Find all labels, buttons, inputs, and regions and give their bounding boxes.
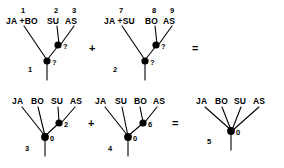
tree5-branch-ja bbox=[205, 107, 231, 130]
tree3-tip2-label: BO bbox=[31, 97, 44, 106]
tree4-number: 4 bbox=[108, 145, 112, 153]
tree3-root-node-label: 0 bbox=[50, 135, 54, 143]
tree1-root-node-label: ? bbox=[52, 59, 57, 67]
tree2-tip1-number: 7 bbox=[119, 7, 123, 15]
node-dots bbox=[41, 41, 235, 141]
tree4-inner-node bbox=[139, 119, 146, 126]
tree-lines-svg bbox=[0, 0, 284, 168]
tree1-tip2-label: SU bbox=[47, 17, 59, 26]
tree3-tip3-label: SU bbox=[51, 97, 63, 106]
tree5-tip4-label: AS bbox=[253, 97, 265, 106]
tree1-inner-node bbox=[54, 41, 61, 48]
tree3-inner-node bbox=[55, 119, 62, 126]
tree2-inner-node bbox=[152, 41, 159, 48]
tree5-number: 5 bbox=[207, 138, 211, 146]
tree3-number: 3 bbox=[25, 145, 29, 153]
operator-plus-bottom: + bbox=[88, 118, 94, 129]
operator-equals-bottom: = bbox=[172, 118, 178, 129]
tree2-branch-tip2 bbox=[155, 26, 157, 44]
tree4-inner-node-label: 6 bbox=[148, 121, 152, 129]
tree4-root-node bbox=[124, 133, 132, 141]
tree1-inner-node-label: ? bbox=[63, 43, 68, 51]
tree5-tip2-label: BO bbox=[215, 97, 228, 106]
tree4-root-node-label: 0 bbox=[133, 135, 137, 143]
tree1-number: 1 bbox=[28, 66, 32, 74]
tree2-branch-tip1 bbox=[122, 26, 145, 60]
tree3-tip4-label: AS bbox=[70, 97, 82, 106]
tree3-inner-node-label: 2 bbox=[64, 121, 68, 129]
tree2-tip3-number: 9 bbox=[170, 7, 174, 15]
tree1-branch-tip1 bbox=[24, 26, 47, 60]
tree2-root-node bbox=[141, 57, 148, 64]
tree5-root-node-label: 0 bbox=[236, 129, 240, 137]
tree4-tip4-label: AS bbox=[153, 97, 165, 106]
tree4-tip1-label: JA bbox=[95, 97, 106, 106]
tree1-root-node bbox=[43, 57, 50, 64]
tree2-tip2-label: BO bbox=[145, 17, 158, 26]
tree1-tip3-label: AS bbox=[65, 17, 77, 26]
tree1-tip2-number: 2 bbox=[54, 7, 58, 15]
tree2-root-node-label: ? bbox=[150, 59, 155, 67]
tree3-tip1-label: JA bbox=[12, 97, 23, 106]
tree3-root-node bbox=[41, 133, 49, 141]
tree1-tip3-number: 3 bbox=[72, 7, 76, 15]
tree5-tip3-label: SU bbox=[234, 97, 246, 106]
tree1-tip1-number: 1 bbox=[21, 7, 25, 15]
operator-equals-top: = bbox=[192, 43, 198, 54]
tree2-number: 2 bbox=[113, 66, 117, 74]
tree1-branch-tip2 bbox=[57, 26, 59, 44]
tree5-root-node bbox=[227, 127, 235, 135]
tree1-tip1-label: JA +BO bbox=[6, 17, 38, 26]
tree2-tip3-label: AS bbox=[163, 17, 175, 26]
tree2-tip1-label: JA +SU bbox=[104, 17, 135, 26]
operator-plus-top: + bbox=[89, 43, 95, 54]
diagram-canvas: 1 JA +BO 2 SU 3 AS ? ? 1 + 7 JA +SU 8 BO… bbox=[0, 0, 284, 168]
tree5-tip1-label: JA bbox=[196, 97, 207, 106]
tree2-tip2-number: 8 bbox=[152, 7, 156, 15]
tree4-tip2-label: SU bbox=[115, 97, 127, 106]
tree4-tip3-label: BO bbox=[134, 97, 147, 106]
tree2-inner-node-label: ? bbox=[161, 43, 166, 51]
